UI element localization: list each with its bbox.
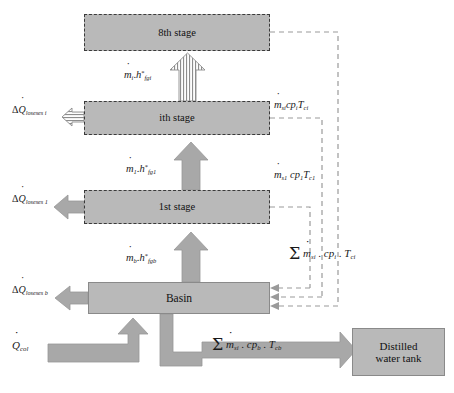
distilled-water-tank-box[interactable]: Distilled water tank [352,328,445,376]
flow-stagei-to-stage8-arrow [170,53,205,101]
label-losses-basin: ΔQloseses b [12,285,48,296]
stage-box-8th[interactable]: 8th stage [84,14,270,51]
stage-box-1st-label: 1st stage [159,201,195,213]
return-line-stagei [270,118,322,297]
loss-stagei-arrow [62,108,84,126]
loss-basin-arrow [55,286,88,310]
label-mdot-i-hfg-i: mi.h*fgi [124,70,151,81]
label-sum-msi-cpi-tci: Σ msi . cpi . Tci [289,246,355,262]
basin-box[interactable]: Basin [88,282,270,314]
return-arrowheads [270,284,279,310]
flow-stage1-to-stagei-arrow [174,142,208,190]
stage-box-1st[interactable]: 1st stage [84,190,270,224]
stage-box-ith[interactable]: ith stage [84,101,270,135]
label-losses-1st: ΔQloseses 1 [12,194,48,205]
basin-box-label: Basin [166,292,192,305]
stage-box-ith-label: ith stage [159,112,194,124]
distilled-water-tank-label: Distilled water tank [375,340,421,365]
loss-stage1-arrow [54,195,84,219]
diagram-canvas: 8th stage ith stage 1st stage Basin Dist… [0,0,454,393]
qcol-inlet-arrow [48,318,148,362]
label-q-col: Qcol [12,340,28,353]
label-ms1-cp1-tc1: ms1 cp1Tc1 [274,170,315,181]
label-losses-ith: ΔQloseses i [12,105,46,116]
label-msi-cpi-tci: msicpiTci [274,100,308,111]
label-mdot-b-hfg-b: mb.h*fgb [126,253,156,264]
label-sum-msi-cpb-tcb: Σ msi . cpb . Tcb [212,337,281,353]
flow-basin-to-stage1-arrow [174,232,208,282]
label-mdot-1-hfg-1: m1.h*fg1 [126,164,156,175]
stage-box-8th-label: 8th stage [158,27,196,39]
